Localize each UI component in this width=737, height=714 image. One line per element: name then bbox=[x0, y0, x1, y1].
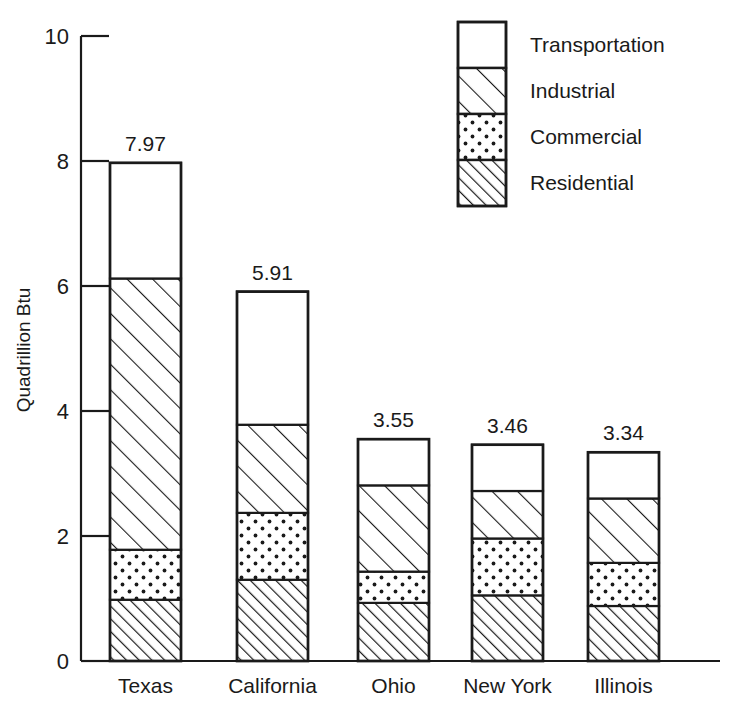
y-tick: 10 bbox=[45, 24, 109, 49]
y-tick-label: 0 bbox=[57, 649, 69, 674]
y-tick: 8 bbox=[57, 149, 109, 174]
bar-segment-commercial bbox=[110, 550, 181, 600]
legend-label-industrial: Industrial bbox=[530, 79, 615, 102]
bar-segment-residential bbox=[110, 600, 181, 661]
x-axis-label-ohio: Ohio bbox=[371, 674, 415, 697]
bar-segment-industrial bbox=[588, 499, 659, 563]
bar-value-label: 3.34 bbox=[603, 421, 644, 444]
x-axis-label-california: California bbox=[228, 674, 317, 697]
bar-new-york bbox=[472, 445, 543, 661]
bar-segment-residential bbox=[358, 603, 429, 661]
bar-illinois bbox=[588, 452, 659, 661]
bar-texas bbox=[110, 163, 181, 661]
x-axis-label-illinois: Illinois bbox=[594, 674, 652, 697]
stacked-bar-chart: 0246810 7.975.913.553.463.34 TexasCalifo… bbox=[0, 0, 737, 714]
chart-canvas: 0246810 7.975.913.553.463.34 TexasCalifo… bbox=[0, 0, 737, 714]
legend-label-commercial: Commercial bbox=[530, 125, 642, 148]
bar-segment-transportation bbox=[588, 452, 659, 498]
bar-ohio bbox=[358, 439, 429, 661]
y-axis-title: Quadrillion Btu bbox=[13, 288, 34, 413]
legend-item-transportation: Transportation bbox=[458, 22, 665, 68]
bar-value-label: 7.97 bbox=[125, 132, 166, 155]
bar-segment-transportation bbox=[237, 292, 308, 425]
legend-item-industrial: Industrial bbox=[458, 68, 615, 114]
bar-segment-transportation bbox=[110, 163, 181, 279]
x-axis-label-texas: Texas bbox=[118, 674, 173, 697]
bar-segment-commercial bbox=[237, 513, 308, 580]
chart-legend: TransportationIndustrialCommercialReside… bbox=[458, 22, 665, 206]
legend-swatch-transportation bbox=[458, 22, 506, 68]
y-tick-label: 4 bbox=[57, 399, 69, 424]
bar-segment-residential bbox=[472, 595, 543, 661]
y-tick-label: 2 bbox=[57, 524, 69, 549]
y-tick: 2 bbox=[57, 524, 109, 549]
bar-california bbox=[237, 292, 308, 661]
legend-swatch-industrial bbox=[458, 68, 506, 114]
bar-segment-commercial bbox=[472, 539, 543, 596]
bar-segment-commercial bbox=[588, 563, 659, 606]
bar-segment-commercial bbox=[358, 572, 429, 603]
y-tick: 6 bbox=[57, 274, 109, 299]
bar-segment-industrial bbox=[237, 425, 308, 513]
legend-label-transportation: Transportation bbox=[530, 33, 665, 56]
legend-swatch-residential bbox=[458, 160, 506, 206]
bar-value-label: 5.91 bbox=[252, 261, 293, 284]
legend-item-commercial: Commercial bbox=[458, 114, 642, 160]
bar-value-label: 3.55 bbox=[373, 408, 414, 431]
bar-segment-industrial bbox=[110, 279, 181, 550]
bar-value-label: 3.46 bbox=[487, 414, 528, 437]
bar-segment-transportation bbox=[358, 439, 429, 485]
y-tick-label: 6 bbox=[57, 274, 69, 299]
legend-swatch-commercial bbox=[458, 114, 506, 160]
y-tick: 4 bbox=[57, 399, 109, 424]
y-tick: 0 bbox=[57, 649, 109, 674]
x-axis-categories: TexasCaliforniaOhioNew YorkIllinois bbox=[118, 674, 653, 697]
x-axis-label-new-york: New York bbox=[463, 674, 552, 697]
bar-segment-residential bbox=[237, 580, 308, 661]
y-tick-label: 10 bbox=[45, 24, 69, 49]
y-tick-label: 8 bbox=[57, 149, 69, 174]
legend-item-residential: Residential bbox=[458, 160, 634, 206]
bar-segment-transportation bbox=[472, 445, 543, 491]
legend-label-residential: Residential bbox=[530, 171, 634, 194]
bar-segment-industrial bbox=[472, 491, 543, 539]
bar-segment-industrial bbox=[358, 485, 429, 571]
bar-segment-residential bbox=[588, 606, 659, 661]
